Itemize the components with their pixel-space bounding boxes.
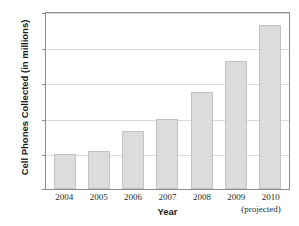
x-axis-tick-label-2007: 2007 bbox=[150, 192, 184, 203]
x-tick-slot-2004: 2004 bbox=[47, 192, 81, 206]
chart-title bbox=[60, 0, 270, 1]
bar-slot-2004 bbox=[48, 13, 82, 189]
x-tick-slot-2006: 2006 bbox=[116, 192, 150, 206]
bar-2004[interactable] bbox=[54, 154, 76, 189]
x-tick-slot-2008: 2008 bbox=[185, 192, 219, 206]
x-axis-title: Year bbox=[45, 206, 290, 217]
bar-2009[interactable] bbox=[225, 61, 247, 189]
bar-2005[interactable] bbox=[88, 151, 110, 189]
bar-chart-figure: Cell Phones Collected (in millions) 10 8… bbox=[0, 0, 299, 226]
x-axis-tick-label-2010: 2010 bbox=[254, 192, 288, 203]
bar-2010[interactable] bbox=[259, 25, 281, 189]
bar-2008[interactable] bbox=[191, 92, 213, 189]
x-axis-tick-label-2009: 2009 bbox=[219, 192, 253, 203]
bar-2007[interactable] bbox=[156, 119, 178, 189]
plot-area bbox=[45, 12, 290, 190]
y-axis-title: Cell Phones Collected (in millions) bbox=[19, 8, 30, 188]
x-axis-tick-label-2008: 2008 bbox=[185, 192, 219, 203]
bar-slot-2009 bbox=[219, 13, 253, 189]
bar-slot-2007 bbox=[150, 13, 184, 189]
bar-slot-2005 bbox=[82, 13, 116, 189]
x-axis-tick-label-2005: 2005 bbox=[81, 192, 115, 203]
x-tick-slot-2005: 2005 bbox=[81, 192, 115, 206]
x-axis-tick-label-2004: 2004 bbox=[47, 192, 81, 203]
y-tick-mark-0 bbox=[42, 189, 46, 190]
x-tick-slot-2007: 2007 bbox=[150, 192, 184, 206]
bar-2006[interactable] bbox=[122, 131, 144, 189]
bar-slot-2008 bbox=[185, 13, 219, 189]
bar-slot-2006 bbox=[116, 13, 150, 189]
x-axis-tick-label-2006: 2006 bbox=[116, 192, 150, 203]
bar-series bbox=[46, 13, 289, 189]
bar-slot-2010 bbox=[253, 13, 287, 189]
